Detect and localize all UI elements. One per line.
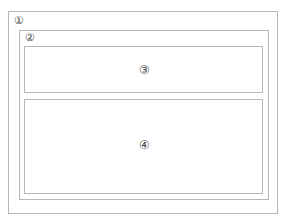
region-3-label: ③ (139, 64, 150, 76)
region-1-label: ① (14, 15, 24, 26)
region-2-label: ② (25, 32, 35, 43)
region-4-label: ④ (139, 139, 150, 151)
